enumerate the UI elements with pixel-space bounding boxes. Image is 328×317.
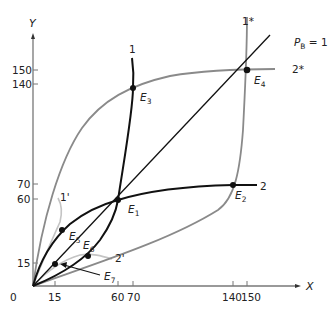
label-e5: E5 [69, 230, 81, 245]
price-label: PB = 1 [294, 36, 328, 51]
curve-2-label: 2 [260, 180, 267, 192]
label-e3: E3 [140, 91, 152, 106]
point-e4 [244, 67, 251, 74]
x-axis-arrow-icon [295, 284, 301, 288]
star-offer-curves [33, 17, 275, 286]
curve-1-prime-label: 1' [60, 191, 70, 203]
y-axis-label: Y [29, 17, 37, 30]
curve-2-star-label: 2* [292, 63, 304, 75]
point-e2 [230, 182, 236, 188]
y-tick-label-70: 70 [17, 178, 30, 190]
label-e7: E7 [104, 270, 116, 285]
origin-label: 0 [10, 291, 17, 303]
label-e1: E1 [128, 203, 140, 218]
point-e1 [115, 197, 121, 203]
x-tick-label-140: 140 [222, 291, 242, 303]
point-e5 [59, 227, 65, 233]
curve-2-star [33, 69, 275, 286]
y-tick-label-140: 140 [12, 78, 32, 90]
x-tick-label-70: 70 [127, 291, 140, 303]
y-tick-label-15: 15 [17, 257, 30, 269]
label-e6: E6 [83, 239, 95, 254]
label-e4: E4 [254, 74, 266, 89]
curve-1-label: 1 [129, 43, 136, 55]
price-line [33, 35, 270, 286]
x-axis-label: X [305, 280, 314, 293]
curve-labels: 1 2 1* 2* 1' 2' [60, 15, 304, 264]
point-e3 [130, 85, 136, 91]
curve-2-prime-label: 2' [115, 252, 125, 264]
curve-1-star-label: 1* [242, 15, 254, 27]
y-tick-label-150: 150 [12, 64, 32, 76]
offer-curve-diagram: Y X 0 150 140 70 60 15 15 60 70 140 150 [0, 0, 328, 317]
y-tick-label-60: 60 [17, 193, 30, 205]
x-tick-label-15: 15 [48, 291, 61, 303]
x-tick-label-60: 60 [111, 291, 124, 303]
curve-1-star [33, 17, 247, 286]
label-e2: E2 [235, 189, 247, 204]
axes: Y X 0 150 140 70 60 15 15 60 70 140 150 [10, 17, 314, 303]
x-tick-label-150: 150 [241, 291, 261, 303]
y-axis-arrow-icon [31, 33, 35, 39]
point-e7 [52, 261, 58, 267]
